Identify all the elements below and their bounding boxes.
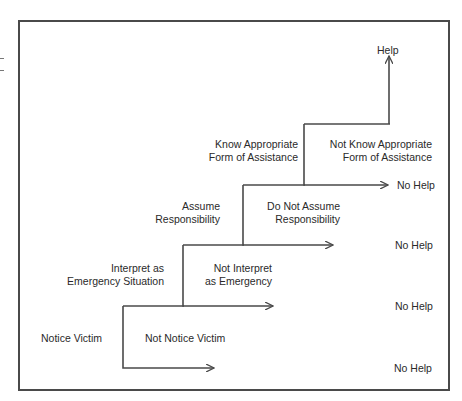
step3-yes-line1: Assume — [155, 200, 220, 213]
step3-no-label: Do Not Assume Responsibility — [267, 200, 340, 225]
step3-yes-label: Assume Responsibility — [155, 200, 220, 225]
help-outcome-label: Help — [377, 44, 399, 57]
step4-no-line2: Form of Assistance — [330, 151, 432, 164]
step2-yes-line1: Interpret as — [67, 262, 164, 275]
step3-no-outcome: No Help — [395, 239, 433, 252]
step3-no-line1: Do Not Assume — [267, 200, 340, 213]
step3-no-line2: Responsibility — [267, 213, 340, 226]
step3-yes-line2: Responsibility — [155, 213, 220, 226]
step2-no-outcome: No Help — [395, 300, 433, 313]
step2-no-line2: as Emergency — [205, 275, 272, 288]
step2-no-line1: Not Interpret — [205, 262, 272, 275]
step2-yes-label: Interpret as Emergency Situation — [67, 262, 164, 287]
step4-yes-line1: Know Appropriate — [209, 138, 298, 151]
step1-no-label: Not Notice Victim — [145, 332, 225, 345]
step2-yes-line2: Emergency Situation — [67, 275, 164, 288]
step4-no-label: Not Know Appropriate Form of Assistance — [330, 138, 432, 163]
step1-no-outcome: No Help — [394, 362, 432, 375]
step1-yes-label: Notice Victim — [41, 332, 102, 345]
step2-no-label: Not Interpret as Emergency — [205, 262, 272, 287]
step4-no-outcome: No Help — [397, 179, 435, 192]
step4-yes-line2: Form of Assistance — [209, 151, 298, 164]
step4-yes-label: Know Appropriate Form of Assistance — [209, 138, 298, 163]
step4-no-line1: Not Know Appropriate — [330, 138, 432, 151]
